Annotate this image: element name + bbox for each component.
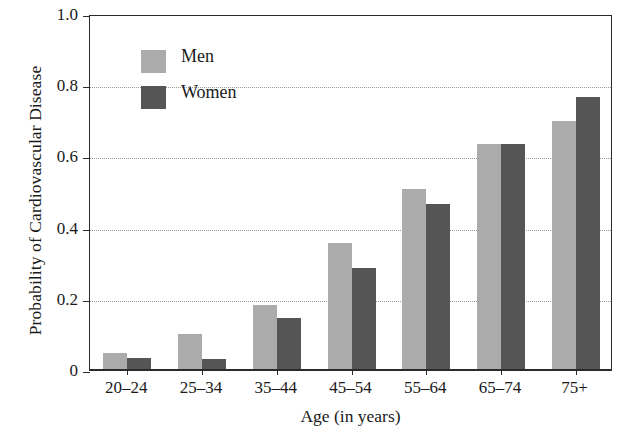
bar-men [402, 189, 426, 369]
bar-group [552, 16, 600, 369]
y-axis-tick [83, 87, 90, 88]
y-axis-tick-label: 0 [0, 361, 78, 381]
y-axis-tick [83, 372, 90, 373]
legend-swatch-men [141, 50, 166, 73]
plot-area [89, 15, 612, 371]
x-axis-tick [501, 369, 502, 375]
bar-men [477, 144, 501, 369]
y-axis-tick [83, 301, 90, 302]
bar-group [477, 16, 525, 369]
y-axis-tick-label: 0.2 [0, 290, 78, 310]
legend-label: Men [181, 46, 214, 67]
bar-group [328, 16, 376, 369]
x-axis-tick [352, 369, 353, 375]
y-axis-tick-label: 0.8 [0, 76, 78, 96]
bar-men [552, 121, 576, 369]
bar-women [576, 97, 600, 369]
bar-group [402, 16, 450, 369]
x-axis-category-label: 35–44 [255, 378, 298, 398]
cardiovascular-disease-bar-chart: Probability of Cardiovascular Disease 00… [0, 0, 628, 444]
x-axis-tick [426, 369, 427, 375]
bar-men [328, 243, 352, 369]
bar-women [426, 204, 450, 369]
y-axis-tick [83, 230, 90, 231]
y-axis-tick-label: 0.4 [0, 219, 78, 239]
x-axis-tick [202, 369, 203, 375]
bar-group [178, 16, 226, 369]
bar-women [501, 144, 525, 369]
x-axis-title: Age (in years) [89, 406, 612, 427]
x-axis-category-label: 65–74 [479, 378, 522, 398]
x-axis-category-label: 20–24 [105, 378, 148, 398]
y-axis-tick [83, 158, 90, 159]
bars-layer [90, 16, 611, 369]
y-axis-tick-label: 0.6 [0, 147, 78, 167]
bar-men [253, 305, 277, 369]
x-axis-category-label: 25–34 [180, 378, 223, 398]
y-axis-tick [83, 16, 90, 17]
bar-women [127, 358, 151, 369]
bar-women [277, 318, 301, 369]
x-axis-category-label: 75+ [561, 378, 588, 398]
y-axis-title: Probability of Cardiovascular Disease [25, 6, 46, 396]
bar-men [103, 353, 127, 369]
legend-swatch-women [141, 86, 166, 109]
x-axis-category-label: 55–64 [404, 378, 447, 398]
bar-men [178, 334, 202, 369]
bar-women [352, 268, 376, 369]
x-axis-tick [576, 369, 577, 375]
x-axis-category-label: 45–54 [329, 378, 372, 398]
bar-group [253, 16, 301, 369]
x-axis-tick [277, 369, 278, 375]
bar-women [202, 359, 226, 369]
x-axis-tick [127, 369, 128, 375]
legend-label: Women [181, 82, 237, 103]
y-axis-tick-label: 1.0 [0, 5, 78, 25]
